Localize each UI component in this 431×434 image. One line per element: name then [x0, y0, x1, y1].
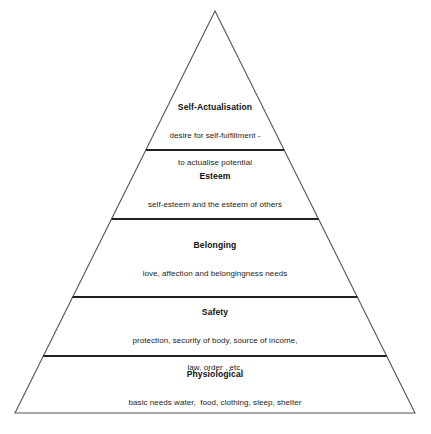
- tier-belonging-title: Belonging: [60, 241, 370, 251]
- tier-self-actualisation-description-line-1: desire for self-fulfillment -: [95, 131, 335, 140]
- tier-belonging-description-line-1: love, affection and belongingness needs: [60, 269, 370, 278]
- tier-physiological-description-line-1: basic needs water, food, clothing, sleep…: [40, 398, 390, 407]
- tier-physiological-title: Physiological: [40, 370, 390, 380]
- tier-esteem: Esteem self-esteem and the esteem of oth…: [75, 172, 355, 227]
- tier-esteem-description: self-esteem and the esteem of others: [75, 182, 355, 228]
- tier-esteem-title: Esteem: [75, 172, 355, 182]
- tier-physiological: Physiological basic needs water, food, c…: [40, 370, 390, 425]
- tier-esteem-description-line-1: self-esteem and the esteem of others: [75, 200, 355, 209]
- tier-physiological-description: basic needs water, food, clothing, sleep…: [40, 380, 390, 426]
- tier-belonging: Belonging love, affection and belongingn…: [60, 241, 370, 296]
- tier-safety-title: Safety: [50, 308, 380, 318]
- tier-safety-description-line-1: protection, security of body, source of …: [50, 336, 380, 345]
- tier-belonging-description: love, affection and belongingness needs: [60, 251, 370, 297]
- tier-self-actualisation-description-line-2: to actualise potential: [95, 158, 335, 167]
- tier-self-actualisation-title: Self-Actualisation: [95, 103, 335, 113]
- pyramid-diagram: Self-Actualisation desire for self-fulfi…: [0, 0, 431, 434]
